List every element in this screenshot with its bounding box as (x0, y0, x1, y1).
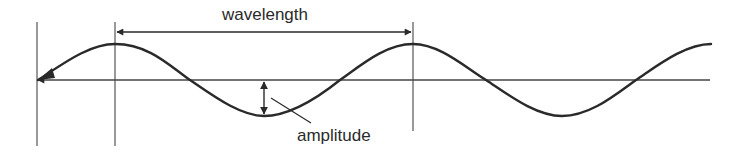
wave-arrowhead (38, 68, 55, 80)
amplitude-leader-line (271, 98, 311, 123)
wavelength-label: wavelength (221, 5, 308, 24)
wave-diagram: wavelength amplitude (0, 0, 740, 155)
amplitude-label: amplitude (297, 126, 371, 145)
